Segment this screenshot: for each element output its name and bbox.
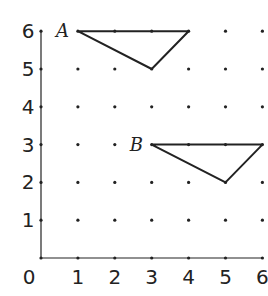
x-tick-label: 4 xyxy=(182,265,195,289)
grid-dot xyxy=(39,143,42,146)
triangle-b xyxy=(152,145,263,183)
grid-dot xyxy=(39,181,42,184)
grid-dot xyxy=(261,181,264,184)
grid-dot xyxy=(187,181,190,184)
grid-dot xyxy=(76,219,79,222)
triangle-label-b: B xyxy=(129,134,143,155)
grid-dot xyxy=(224,67,227,70)
grid-dot xyxy=(187,105,190,108)
y-tick-label: 1 xyxy=(22,208,35,232)
grid-dot xyxy=(76,143,79,146)
grid-dot xyxy=(261,219,264,222)
y-tick-label: 2 xyxy=(22,170,35,194)
grid-dot xyxy=(39,105,42,108)
x-tick-label: 0 xyxy=(23,265,36,289)
grid-dot xyxy=(150,181,153,184)
grid-dot xyxy=(261,105,264,108)
triangle-a xyxy=(78,31,189,69)
grid-dot xyxy=(113,105,116,108)
grid-dot xyxy=(150,219,153,222)
grid-dot xyxy=(113,256,116,259)
x-tick-label: 1 xyxy=(72,265,85,289)
grid-dot xyxy=(39,67,42,70)
x-tick-label: 6 xyxy=(256,265,268,289)
x-tick-label: 5 xyxy=(219,265,232,289)
x-tick-label: 2 xyxy=(108,265,121,289)
triangles: AB xyxy=(54,20,263,182)
grid-dot xyxy=(76,181,79,184)
grid-dot xyxy=(224,256,227,259)
grid-dot xyxy=(261,256,264,259)
grid-dot xyxy=(187,219,190,222)
grid-dot xyxy=(113,181,116,184)
dot-grid-diagram: AB 0123456123456 xyxy=(0,0,268,296)
grid-dot xyxy=(39,256,42,259)
grid-dot xyxy=(150,105,153,108)
grid-dot xyxy=(150,256,153,259)
grid-dot xyxy=(76,256,79,259)
grid-dot xyxy=(76,105,79,108)
y-tick-label: 3 xyxy=(22,133,35,157)
tick-labels: 0123456123456 xyxy=(22,19,268,289)
grid-dot xyxy=(261,30,264,33)
grid-dot xyxy=(187,67,190,70)
grid-dot xyxy=(39,30,42,33)
grid-dot xyxy=(113,67,116,70)
grid-dot xyxy=(261,67,264,70)
x-tick-label: 3 xyxy=(145,265,158,289)
grid-dot xyxy=(187,256,190,259)
triangle-label-a: A xyxy=(54,20,69,41)
grid-dot xyxy=(113,219,116,222)
grid-dot xyxy=(113,143,116,146)
y-tick-label: 4 xyxy=(22,95,35,119)
y-tick-label: 5 xyxy=(22,57,35,81)
grid-dot xyxy=(76,67,79,70)
grid-dot xyxy=(224,30,227,33)
grid-dot xyxy=(224,219,227,222)
y-tick-label: 6 xyxy=(22,19,35,43)
grid-dot xyxy=(224,105,227,108)
grid-dot xyxy=(39,219,42,222)
